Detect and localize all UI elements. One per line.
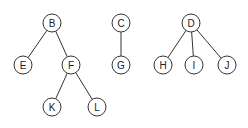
svg-text:F: F: [68, 60, 74, 71]
svg-text:I: I: [193, 60, 196, 71]
edge-B-F: [56, 31, 68, 57]
edge-F-K: [56, 73, 68, 99]
node-I: I: [185, 56, 203, 74]
node-C: C: [112, 14, 130, 32]
nodes-layer: B E F K L C G D H I J: [14, 14, 236, 116]
svg-text:C: C: [117, 18, 124, 29]
node-E: E: [14, 56, 32, 74]
edge-B-E: [28, 30, 47, 57]
svg-text:L: L: [94, 102, 100, 113]
svg-text:G: G: [117, 60, 125, 71]
node-L: L: [88, 98, 106, 116]
svg-text:J: J: [225, 60, 230, 71]
tree-forest-diagram: B E F K L C G D H I J: [0, 0, 248, 128]
svg-text:D: D: [187, 18, 194, 29]
node-D: D: [182, 14, 200, 32]
node-K: K: [43, 98, 61, 116]
edge-F-L: [76, 73, 93, 100]
node-B: B: [43, 14, 61, 32]
node-F: F: [62, 56, 80, 74]
node-H: H: [154, 56, 172, 74]
svg-text:E: E: [20, 60, 27, 71]
svg-text:K: K: [49, 102, 56, 113]
edge-D-J: [197, 30, 221, 58]
edge-D-H: [168, 30, 186, 57]
svg-text:B: B: [49, 18, 56, 29]
svg-text:H: H: [159, 60, 166, 71]
edge-D-I: [192, 32, 194, 56]
node-J: J: [218, 56, 236, 74]
node-G: G: [112, 56, 130, 74]
